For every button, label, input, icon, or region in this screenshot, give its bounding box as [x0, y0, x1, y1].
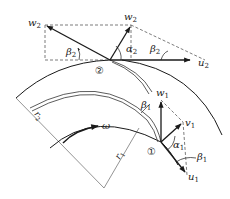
label-r1: r1: [113, 149, 127, 162]
label-w2-top: w2: [124, 11, 137, 24]
outer-circle-arc: [122, 60, 222, 135]
label-alpha1: α1: [173, 139, 184, 152]
label-alpha2: α2: [126, 43, 137, 56]
rotation-arrow: [63, 126, 98, 143]
label-r2: r2: [31, 109, 45, 123]
label-beta1-blade: β1: [140, 99, 151, 112]
label-w1: w1: [156, 87, 169, 100]
inlet-dashed-construction: [161, 100, 187, 175]
beta2-right-arc: [161, 51, 168, 60]
label-u1: u1: [188, 171, 199, 184]
impeller-velocity-diagram: w2 w2 u2 β2 α2 β2 ② w1 v1 u1 β1 α1 β1 ① …: [0, 0, 230, 199]
label-beta1-lower: β1: [196, 151, 207, 164]
r2-line: [16, 98, 104, 188]
marker-outlet: ②: [95, 65, 104, 76]
radius-lines: [16, 98, 139, 188]
beta2-left-arc: [78, 48, 80, 60]
w2-vector: [47, 26, 110, 60]
marker-inlet: ①: [147, 146, 156, 157]
label-v1: v1: [185, 117, 195, 130]
label-u2: u2: [198, 57, 209, 70]
label-w2-left: w2: [28, 17, 41, 30]
label-beta2-left: β2: [65, 46, 76, 59]
label-beta2-right: β2: [149, 43, 160, 56]
label-omega: ω: [102, 120, 110, 131]
